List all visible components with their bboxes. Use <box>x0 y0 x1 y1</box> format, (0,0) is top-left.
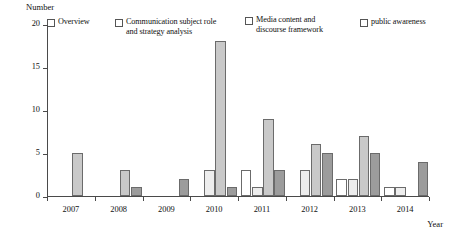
bar <box>395 187 406 196</box>
bar <box>179 179 190 196</box>
y-tick-label: 20 <box>32 19 40 29</box>
bar <box>241 170 252 196</box>
x-tick <box>334 197 335 201</box>
bar <box>336 179 347 196</box>
x-tick <box>95 197 96 201</box>
x-tick-label: 2012 <box>301 205 318 215</box>
bar <box>322 153 333 196</box>
y-tick-label: 5 <box>36 148 40 158</box>
y-tick: 10 <box>43 111 47 112</box>
bar <box>384 187 395 196</box>
y-tick: 5 <box>43 154 47 155</box>
bar <box>311 144 322 196</box>
x-tick <box>47 197 48 201</box>
bar <box>72 153 83 196</box>
bar <box>215 41 226 196</box>
x-tick-label: 2007 <box>63 205 80 215</box>
y-tick: 15 <box>43 68 47 69</box>
x-tick <box>381 197 382 201</box>
x-tick-label: 2009 <box>158 205 175 215</box>
bar <box>131 187 142 196</box>
y-tick-label: 10 <box>32 105 40 115</box>
bar <box>252 187 263 196</box>
bar <box>418 162 429 196</box>
bar <box>359 136 370 196</box>
plot-area: 05101520 2007200820092010201120122013201… <box>47 25 429 197</box>
x-tick <box>429 197 430 201</box>
x-tick-label: 2011 <box>254 205 270 215</box>
y-tick: 20 <box>43 25 47 26</box>
bar <box>120 170 131 196</box>
bar <box>263 119 274 196</box>
y-axis-title: Number <box>26 2 54 12</box>
x-axis-title: Year <box>427 219 443 229</box>
bar <box>300 170 311 196</box>
x-tick-label: 2008 <box>110 205 127 215</box>
bar-chart: Number Overview Communication subject ro… <box>0 0 449 235</box>
bar <box>348 179 359 196</box>
x-tick-label: 2010 <box>206 205 223 215</box>
bar <box>370 153 381 196</box>
legend-swatch-icon <box>245 17 253 25</box>
bar <box>227 187 238 196</box>
x-tick-label: 2014 <box>397 205 414 215</box>
x-tick <box>190 197 191 201</box>
x-tick <box>238 197 239 201</box>
x-tick-label: 2013 <box>349 205 366 215</box>
bars-layer <box>48 25 429 196</box>
bar <box>204 170 215 196</box>
y-tick-label: 15 <box>32 62 40 72</box>
y-tick-label: 0 <box>36 191 40 201</box>
bar <box>274 170 285 196</box>
x-tick <box>143 197 144 201</box>
x-tick <box>286 197 287 201</box>
